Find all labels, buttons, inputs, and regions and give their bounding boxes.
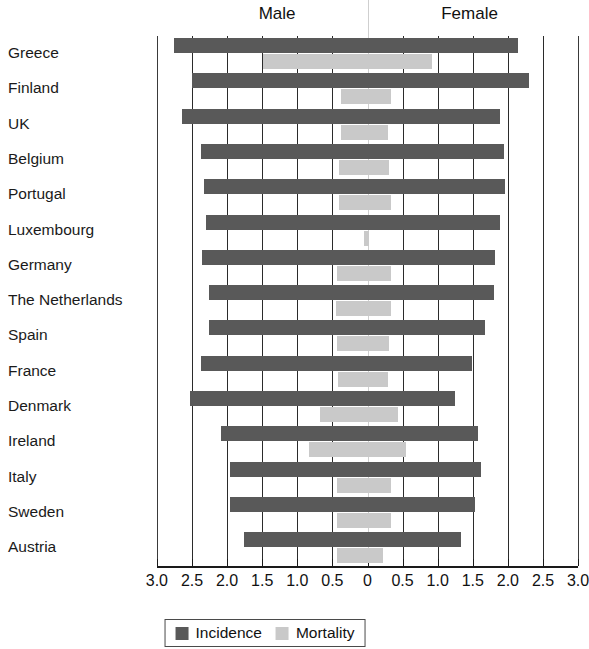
- category-label: Italy: [8, 468, 36, 486]
- axis-tick: [262, 559, 263, 566]
- category-label: Austria: [8, 538, 56, 556]
- legend-entry[interactable]: Mortality: [276, 624, 355, 642]
- legend-label: Mortality: [296, 624, 355, 642]
- incidence-bar: [202, 250, 495, 265]
- incidence-bar: [182, 109, 500, 124]
- mortality-bar: [336, 301, 391, 316]
- gridline: [578, 36, 579, 566]
- chart-legend: IncidenceMortality: [165, 619, 366, 647]
- incidence-bar: [174, 38, 518, 53]
- category-label: Greece: [8, 44, 59, 62]
- incidence-bar: [201, 144, 504, 159]
- axis-tick-label: 3.0: [567, 572, 589, 590]
- axis-tick-label: 1.0: [286, 572, 308, 590]
- mortality-bar: [364, 231, 369, 246]
- axis-tick: [332, 559, 333, 566]
- axis-tick-label: 2.5: [532, 572, 554, 590]
- axis-tick: [227, 559, 228, 566]
- axis-tick-label: 2.0: [497, 572, 519, 590]
- axis-tick-label: 1.5: [251, 572, 273, 590]
- legend-swatch-icon: [176, 627, 189, 640]
- axis-tick: [473, 559, 474, 566]
- axis-tick-label: 0.5: [391, 572, 413, 590]
- category-label: Sweden: [8, 503, 64, 521]
- category-label: Belgium: [8, 150, 64, 168]
- gridline: [543, 36, 544, 566]
- category-label: Luxembourg: [8, 221, 94, 239]
- axis-tick-label: 0.5: [321, 572, 343, 590]
- axis-tick-label: 1.0: [427, 572, 449, 590]
- gridline: [157, 36, 158, 566]
- mortality-bar: [338, 372, 388, 387]
- legend-swatch-icon: [276, 627, 289, 640]
- axis-tick: [297, 559, 298, 566]
- mortality-bar: [337, 336, 390, 351]
- axis-tick: [192, 559, 193, 566]
- category-label: Finland: [8, 79, 59, 97]
- incidence-bar: [230, 462, 481, 477]
- axis-tick-label: 2.0: [216, 572, 238, 590]
- mortality-bar: [309, 442, 406, 457]
- legend-label: Incidence: [196, 624, 262, 642]
- mortality-bar: [341, 125, 388, 140]
- mortality-bar: [339, 195, 391, 210]
- mortality-bar: [320, 407, 399, 422]
- category-label: Spain: [8, 326, 48, 344]
- category-label: Portugal: [8, 185, 66, 203]
- axis-tick: [508, 559, 509, 566]
- mortality-bar: [337, 266, 391, 281]
- incidence-bar: [209, 285, 494, 300]
- category-label: UK: [8, 115, 30, 133]
- category-label: France: [8, 362, 56, 380]
- incidence-bar: [192, 73, 529, 88]
- category-label: Germany: [8, 256, 72, 274]
- axis-tick-label: 3.0: [146, 572, 168, 590]
- axis-tick-label: 2.5: [181, 572, 203, 590]
- axis-tick: [438, 559, 439, 566]
- gridline: [508, 36, 509, 566]
- mortality-bar: [341, 89, 392, 104]
- category-label: The Netherlands: [8, 291, 123, 309]
- incidence-bar: [204, 179, 505, 194]
- category-label: Denmark: [8, 397, 71, 415]
- incidence-bar: [221, 426, 478, 441]
- axis-tick-label: 0: [363, 572, 372, 590]
- mortality-bar: [263, 54, 432, 69]
- incidence-bar: [209, 320, 485, 335]
- mortality-bar: [337, 478, 392, 493]
- incidence-bar: [190, 391, 455, 406]
- axis-tick: [403, 559, 404, 566]
- mortality-bar: [339, 160, 389, 175]
- axis-tick-label: 1.5: [462, 572, 484, 590]
- incidence-bar: [201, 356, 472, 371]
- x-axis-line: [157, 566, 578, 568]
- incidence-bar: [244, 532, 461, 547]
- legend-entry[interactable]: Incidence: [176, 624, 262, 642]
- axis-tick: [543, 559, 544, 566]
- mortality-bar: [337, 548, 383, 563]
- axis-tick: [578, 559, 579, 566]
- category-label: Ireland: [8, 432, 55, 450]
- mortality-bar: [337, 513, 391, 528]
- incidence-bar: [230, 497, 475, 512]
- incidence-bar: [206, 215, 500, 230]
- axis-tick: [157, 559, 158, 566]
